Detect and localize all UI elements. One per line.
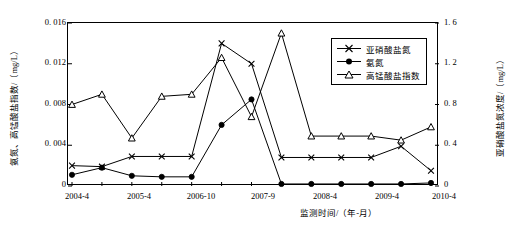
y-axis-right-tick-2: 0. 8 [444, 99, 457, 108]
legend-marker-triangle-icon [336, 69, 362, 80]
y-axis-left-tick-3: 0. 004 [45, 139, 66, 148]
x-axis-tick-2009-4: 2009-4 [357, 192, 417, 201]
x-axis-tick-2006-10: 2006-10 [171, 192, 231, 201]
y-axis-right-tick-1: 1. 2 [444, 58, 457, 67]
legend-label-ammonia: 氨氮 [366, 56, 384, 68]
chart-container: 0. 016 0. 012 0. 008 0. 004 0 1. 6 1. 2 … [0, 0, 510, 234]
legend-label-nitrite: 亚硝酸盐氮 [366, 43, 411, 55]
y-axis-left-tick-0: 0. 016 [45, 18, 66, 27]
legend-marker-circle-icon [336, 56, 362, 67]
y-axis-right-tick-4: 0 [444, 180, 448, 189]
series-line-ammonia [69, 97, 433, 187]
x-axis-tick-2010-4: 2010-4 [414, 192, 474, 201]
x-axis-tick-2004-4: 2004-4 [47, 192, 107, 201]
y-axis-right-tick-3: 0. 4 [444, 139, 457, 148]
chart-legend: 亚硝酸盐氮 氨氮 高锰酸盐指数 [331, 38, 427, 85]
y-axis-right-tick-0: 1. 6 [444, 18, 457, 27]
y-axis-left-tick-4: 0 [62, 180, 66, 189]
y-axis-right-ticks [435, 23, 439, 186]
x-axis-tick-2007-9: 2007-9 [233, 192, 293, 201]
legend-item-ammonia: 氨氮 [336, 55, 420, 68]
legend-marker-x-icon [336, 43, 362, 54]
x-axis-tick-2005-4: 2005-4 [109, 192, 169, 201]
y-axis-left-title: 氨氮、高锰酸盐指数/（mg/L） [7, 31, 19, 181]
legend-label-permanganate: 高锰酸盐指数 [366, 69, 420, 81]
legend-item-permanganate: 高锰酸盐指数 [336, 68, 420, 81]
y-axis-left-tick-1: 0. 012 [45, 58, 66, 67]
y-axis-right-title: 亚硝酸盐氮浓度/（mg/L） [493, 31, 505, 181]
x-axis-tick-2008-4: 2008-4 [295, 192, 355, 201]
x-axis-title: 监测时间/（年-月） [300, 206, 377, 218]
legend-item-nitrite: 亚硝酸盐氮 [336, 42, 420, 55]
y-axis-left-tick-2: 0. 008 [45, 99, 66, 108]
